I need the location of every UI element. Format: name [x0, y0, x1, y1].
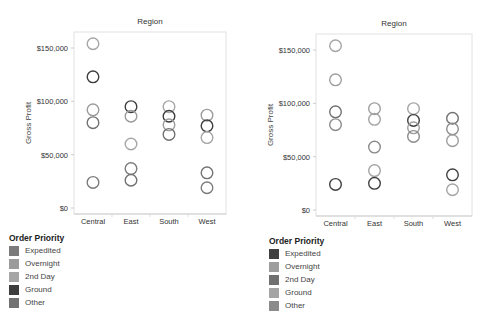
chart-title: Region	[137, 17, 162, 26]
x-tick-label-central: Central	[81, 217, 106, 225]
legend-item-other[interactable]: Other	[269, 299, 324, 312]
legend-label: Other	[285, 301, 305, 310]
chart-title: Region	[381, 19, 406, 28]
y-tick-label: $100,000	[37, 97, 68, 106]
y-tick-label: $150,000	[37, 44, 68, 53]
legend-label: 2nd Day	[285, 275, 315, 284]
legend-label: 2nd Day	[25, 272, 55, 281]
legend-item-overnight[interactable]: Overnight	[9, 257, 64, 270]
legend-swatch	[269, 301, 279, 311]
legend-right: Order PriorityExpeditedOvernight2nd DayG…	[269, 235, 324, 312]
scatter-plot-right: RegionGross Profit$0$50,000$100,000$150,…	[248, 0, 496, 227]
y-tick-label: $150,000	[279, 46, 310, 55]
legend-swatch	[269, 249, 279, 259]
legend-title: Order Priority	[269, 235, 324, 247]
x-tick-label-south: South	[404, 219, 424, 227]
chart-right: RegionGross Profit$0$50,000$100,000$150,…	[248, 0, 496, 227]
legend-label: Expedited	[285, 249, 321, 258]
x-tick-label-west: West	[199, 217, 217, 225]
legend-item-expedited[interactable]: Expedited	[9, 244, 64, 257]
legend-label: Overnight	[25, 259, 60, 268]
legend-swatch	[9, 285, 19, 295]
legend-swatch	[9, 298, 19, 308]
legend-swatch	[9, 272, 19, 282]
x-tick-label-west: West	[444, 219, 462, 227]
x-tick-label-east: East	[367, 219, 383, 227]
y-tick-label: $50,000	[283, 153, 310, 162]
y-axis-label: Gross Profit	[24, 101, 33, 144]
y-axis-label: Gross Profit	[266, 103, 275, 146]
x-tick-label-central: Central	[323, 219, 348, 227]
legend-title: Order Priority	[9, 232, 64, 244]
legend-item-ground[interactable]: Ground	[9, 283, 64, 296]
y-tick-label: $100,000	[279, 99, 310, 108]
legend-swatch	[269, 262, 279, 272]
legend-label: Ground	[25, 285, 52, 294]
y-tick-label: $0	[302, 206, 310, 215]
legend-swatch	[9, 246, 19, 256]
legend-item-2nd-day[interactable]: 2nd Day	[9, 270, 64, 283]
legend-swatch	[269, 275, 279, 285]
legend-swatch	[9, 259, 19, 269]
legend-item-overnight[interactable]: Overnight	[269, 260, 324, 273]
x-tick-label-east: East	[123, 217, 139, 225]
y-tick-label: $0	[60, 204, 68, 213]
legend-item-other[interactable]: Other	[9, 296, 64, 309]
chart-left: RegionGross Profit$0$50,000$100,000$150,…	[0, 0, 248, 225]
legend-label: Expedited	[25, 246, 61, 255]
legend-label: Overnight	[285, 262, 320, 271]
legend-label: Ground	[285, 288, 312, 297]
x-tick-label-south: South	[159, 217, 179, 225]
legend-item-2nd-day[interactable]: 2nd Day	[269, 273, 324, 286]
y-tick-label: $50,000	[41, 151, 68, 160]
legend-left: Order PriorityExpeditedOvernight2nd DayG…	[9, 232, 64, 309]
scatter-plot-left: RegionGross Profit$0$50,000$100,000$150,…	[0, 0, 248, 225]
legend-item-expedited[interactable]: Expedited	[269, 247, 324, 260]
legend-swatch	[269, 288, 279, 298]
legend-label: Other	[25, 298, 45, 307]
legend-item-ground[interactable]: Ground	[269, 286, 324, 299]
